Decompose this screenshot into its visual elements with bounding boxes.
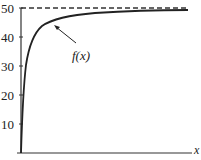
chart: 50 40 30 20 10 x f(x)	[0, 0, 201, 160]
y-tick-50: 50	[1, 1, 14, 16]
x-axis-label: x	[193, 143, 200, 157]
y-tick-40: 40	[1, 30, 14, 45]
y-tick-20: 20	[1, 88, 14, 103]
y-tick-30: 30	[1, 59, 14, 74]
annotation-label: f(x)	[72, 48, 90, 63]
f-curve	[21, 10, 188, 153]
annotation-arrow	[56, 27, 76, 43]
y-tick-10: 10	[1, 117, 14, 132]
